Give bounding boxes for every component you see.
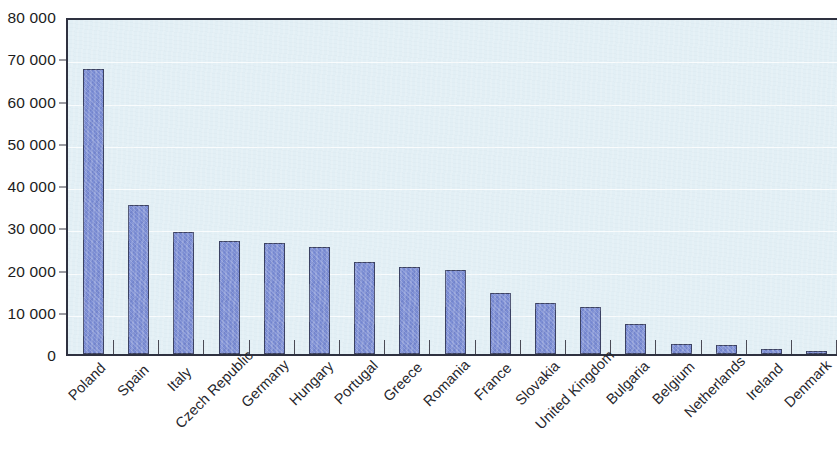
y-axis-tick-label: 0 — [0, 347, 56, 365]
y-axis-tick-label: 20 000 — [0, 263, 56, 281]
y-axis-tick-label: 80 000 — [0, 9, 56, 27]
x-axis-category-label: Poland — [65, 360, 109, 404]
x-axis-tick-mark — [294, 340, 295, 354]
x-axis-tick-mark — [158, 340, 159, 354]
x-axis-tick-marks — [66, 340, 837, 358]
y-axis-tick-mark — [59, 187, 66, 188]
y-axis-tick-label: 30 000 — [0, 220, 56, 238]
y-axis-tick-mark — [59, 313, 66, 314]
x-axis-tick-mark — [701, 340, 702, 354]
y-axis-tick-label: 40 000 — [0, 178, 56, 196]
y-axis-tick-label: 50 000 — [0, 136, 56, 154]
x-axis-tick-mark — [746, 340, 747, 354]
x-axis-category-label: Italy — [164, 363, 194, 393]
x-axis-category-label: Czech Republic — [172, 348, 256, 432]
bar — [83, 69, 104, 354]
y-axis-labels: 010 00020 00030 00040 00050 00060 00070 … — [0, 0, 56, 457]
bar — [264, 243, 285, 354]
bar — [173, 232, 194, 354]
x-axis-tick-mark — [203, 340, 204, 354]
x-axis-tick-mark — [520, 340, 521, 354]
x-axis-category-label: United Kingdom — [532, 347, 617, 432]
x-axis-tick-mark — [475, 340, 476, 354]
bar — [219, 241, 240, 354]
bars-layer — [68, 20, 837, 354]
bar-chart: 010 00020 00030 00040 00050 00060 00070 … — [0, 0, 837, 457]
x-axis-labels: PolandSpainItalyCzech RepublicGermanyHun… — [66, 358, 837, 457]
y-axis-tick-mark — [59, 229, 66, 230]
x-axis-category-label: Ireland — [743, 360, 786, 403]
x-axis-category-label: Denmark — [781, 357, 834, 410]
plot-area — [66, 18, 837, 356]
x-axis-tick-mark — [565, 340, 566, 354]
y-axis-tick-mark — [59, 144, 66, 145]
x-axis-category-label: Hungary — [286, 357, 337, 408]
y-axis-tick-label: 60 000 — [0, 94, 56, 112]
y-axis-tick-mark — [59, 102, 66, 103]
x-axis-category-label: Portugal — [331, 358, 381, 408]
bar — [128, 205, 149, 354]
x-axis-category-label: France — [471, 360, 515, 404]
x-axis-tick-mark — [791, 340, 792, 354]
x-axis-category-label: Spain — [114, 361, 152, 399]
x-axis-tick-mark — [429, 340, 430, 354]
y-axis-tick-label: 10 000 — [0, 305, 56, 323]
y-axis-tick-mark — [59, 271, 66, 272]
y-axis-tick-mark — [59, 60, 66, 61]
x-axis-tick-mark — [655, 340, 656, 354]
bar — [309, 247, 330, 354]
x-axis-tick-mark — [113, 340, 114, 354]
x-axis-tick-mark — [339, 340, 340, 354]
x-axis-tick-mark — [384, 340, 385, 354]
x-axis-category-label: Romania — [420, 357, 473, 410]
y-axis-tick-label: 70 000 — [0, 51, 56, 69]
x-axis-category-label: Greece — [380, 359, 425, 404]
